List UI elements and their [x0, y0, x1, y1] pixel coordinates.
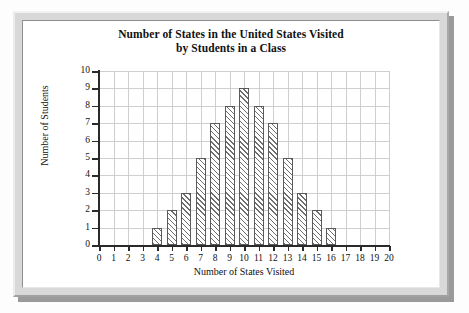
x-axis-tick	[389, 246, 391, 251]
x-axis-tick	[288, 246, 290, 251]
x-axis-tick	[302, 246, 304, 251]
gridline-vertical	[346, 71, 347, 245]
bar	[297, 193, 307, 245]
bar	[167, 210, 177, 245]
x-axis-tick	[99, 246, 101, 251]
bar	[283, 158, 293, 245]
gridline-vertical	[128, 71, 129, 245]
bar	[196, 158, 206, 245]
y-axis-tick-label: 10	[50, 65, 90, 75]
y-axis-tick-label: 3	[50, 187, 90, 197]
bar	[239, 88, 249, 245]
y-axis-tick-label: 5	[50, 152, 90, 162]
x-axis-tick	[331, 246, 333, 251]
bar-chart: Number of States in the United States Vi…	[22, 20, 440, 288]
bar	[326, 228, 336, 245]
x-axis-tick	[230, 246, 232, 251]
bar	[268, 123, 278, 245]
x-axis-tick-label: 20	[379, 253, 399, 263]
y-axis-tick-label: 0	[50, 239, 90, 249]
x-axis-tick	[186, 246, 188, 251]
x-axis-tick	[259, 246, 261, 251]
x-axis-tick	[346, 246, 348, 251]
gridline-vertical	[114, 71, 115, 245]
chart-screenshot: Number of States in the United States Vi…	[0, 0, 469, 313]
x-axis-tick	[201, 246, 203, 251]
y-axis-tick-label: 1	[50, 222, 90, 232]
x-axis-tick	[114, 246, 116, 251]
y-axis-tick-label: 4	[50, 169, 90, 179]
gridline-vertical	[157, 71, 158, 245]
x-axis-title: Number of States Visited	[99, 266, 389, 277]
gridline-vertical	[331, 71, 332, 245]
bar	[152, 228, 162, 245]
y-axis-tick-label: 7	[50, 117, 90, 127]
gridline-vertical	[389, 71, 390, 245]
bar	[254, 106, 264, 245]
x-axis-tick	[143, 246, 145, 251]
x-axis-tick	[215, 246, 217, 251]
x-axis-tick	[273, 246, 275, 251]
y-axis-tick-label: 8	[50, 100, 90, 110]
x-axis-tick	[157, 246, 159, 251]
x-axis-tick	[317, 246, 319, 251]
x-axis-tick	[360, 246, 362, 251]
bar	[312, 210, 322, 245]
x-axis-tick	[128, 246, 130, 251]
x-axis-tick	[375, 246, 377, 251]
x-axis-tick	[172, 246, 174, 251]
bar	[210, 123, 220, 245]
gridline-vertical	[375, 71, 376, 245]
y-axis-tick-label: 2	[50, 204, 90, 214]
y-axis-line	[98, 70, 100, 246]
plot-area	[99, 71, 389, 245]
y-axis-tick-labels: 012345678910	[46, 20, 90, 288]
gridline-vertical	[143, 71, 144, 245]
bar	[181, 193, 191, 245]
x-axis-tick	[244, 246, 246, 251]
gridline-vertical	[360, 71, 361, 245]
y-axis-tick-label: 6	[50, 135, 90, 145]
y-axis-tick-label: 9	[50, 82, 90, 92]
bar	[225, 106, 235, 245]
